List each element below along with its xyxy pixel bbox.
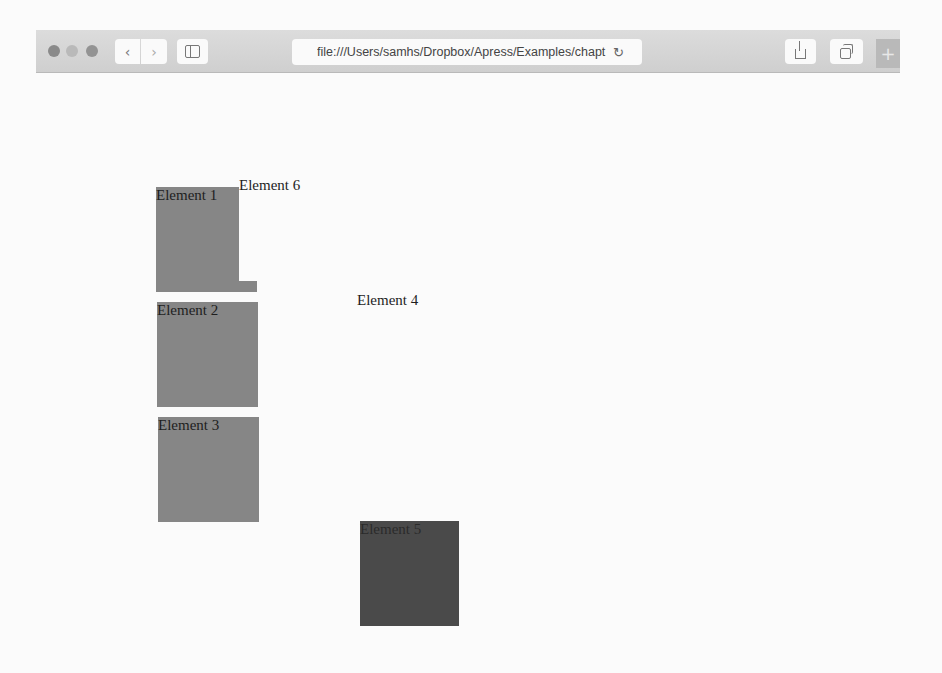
address-bar[interactable]: file:///Users/samhs/Dropbox/Apress/Examp… bbox=[292, 39, 642, 65]
share-button[interactable] bbox=[785, 39, 816, 64]
sidebar-icon bbox=[185, 45, 200, 58]
element-5-label: Element 5 bbox=[360, 521, 421, 537]
close-window-button[interactable] bbox=[48, 45, 60, 57]
forward-button[interactable]: › bbox=[141, 39, 167, 64]
element-3-label: Element 3 bbox=[158, 417, 219, 433]
plus-icon: + bbox=[880, 43, 895, 64]
show-tabs-button[interactable] bbox=[830, 39, 863, 64]
browser-toolbar: ‹ › file:///Users/samhs/Dropbox/Apress/E… bbox=[36, 30, 900, 73]
url-text: file:///Users/samhs/Dropbox/Apress/Examp… bbox=[317, 45, 607, 59]
element-1-label: Element 1 bbox=[156, 187, 217, 203]
back-button[interactable]: ‹ bbox=[115, 39, 140, 64]
element-2-label: Element 2 bbox=[157, 302, 218, 318]
element-5-box: Element 5 bbox=[360, 521, 459, 626]
chevron-right-icon: › bbox=[151, 44, 157, 60]
element-6-box: Element 6 bbox=[239, 177, 339, 281]
share-icon bbox=[795, 49, 806, 59]
element-4-label: Element 4 bbox=[357, 292, 418, 308]
element-4-box: Element 4 bbox=[357, 292, 457, 392]
zoom-window-button[interactable] bbox=[86, 45, 98, 57]
element-3-box: Element 3 bbox=[158, 417, 259, 522]
element-6-label: Element 6 bbox=[239, 177, 300, 193]
element-2-box: Element 2 bbox=[157, 302, 258, 407]
sidebar-toggle-button[interactable] bbox=[177, 39, 208, 64]
chevron-left-icon: ‹ bbox=[125, 44, 131, 60]
reload-icon[interactable]: ↻ bbox=[613, 45, 624, 60]
new-tab-button[interactable]: + bbox=[876, 39, 900, 68]
tabs-icon bbox=[840, 48, 851, 59]
minimize-window-button[interactable] bbox=[66, 45, 78, 57]
